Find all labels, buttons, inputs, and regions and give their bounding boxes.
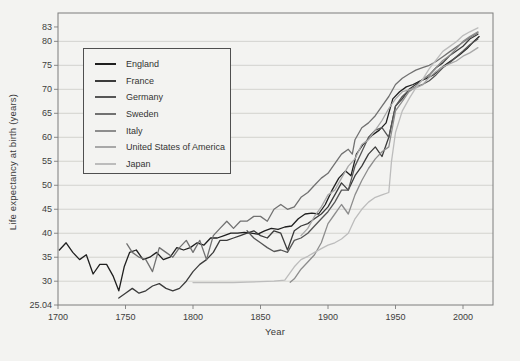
y-axis-title: Life expectancy at birth (years) [7, 62, 19, 262]
legend-swatch-england [95, 63, 116, 65]
y-tick-label: 55 [42, 156, 52, 166]
legend-item-sweden: Sweden [93, 106, 230, 123]
legend-label-sweden: Sweden [126, 109, 159, 119]
x-tick-label: 1850 [250, 312, 270, 322]
x-tick-label: 1700 [48, 312, 68, 322]
y-tick-label: 40 [42, 228, 52, 238]
x-tick-label: 1800 [183, 312, 203, 322]
x-tick-label: 2000 [453, 312, 473, 322]
legend-swatch-italy [95, 130, 116, 132]
legend-item-japan: Japan [93, 156, 230, 173]
y-tick-label: 25.04 [29, 300, 52, 310]
legend-swatch-united-states-of-america [95, 146, 116, 148]
legend-label-japan: Japan [126, 159, 151, 169]
legend-swatch-france [95, 80, 116, 82]
legend-label-england: England [126, 59, 159, 69]
legend-item-italy: Italy [93, 122, 230, 139]
x-axis-title: Year [175, 326, 375, 337]
series-line-japan [193, 28, 478, 283]
legend-label-italy: Italy [126, 126, 143, 136]
x-tick-label: 1950 [385, 312, 405, 322]
legend-label-germany: Germany [126, 92, 163, 102]
legend-item-germany: Germany [93, 89, 230, 106]
legend-swatch-germany [95, 96, 116, 98]
y-tick-label: 65 [42, 108, 52, 118]
series-line-italy [290, 32, 478, 282]
y-tick-label: 70 [42, 84, 52, 94]
legend-swatch-japan [95, 163, 116, 165]
legend: EnglandFranceGermanySwedenItalyUnited St… [83, 48, 231, 174]
y-tick-label: 75 [42, 60, 52, 70]
y-tick-label: 83 [42, 22, 52, 32]
legend-item-england: England [93, 56, 230, 73]
y-tick-label: 30 [42, 276, 52, 286]
legend-label-france: France [126, 76, 154, 86]
plot-area: 25.0430354045505560657075808317001750180… [0, 0, 520, 361]
legend-item-united-states-of-america: United States of America [93, 139, 230, 156]
y-tick-label: 60 [42, 132, 52, 142]
y-tick-label: 50 [42, 180, 52, 190]
life-expectancy-line-chart: 25.0430354045505560657075808317001750180… [0, 0, 520, 361]
y-tick-label: 80 [42, 36, 52, 46]
legend-swatch-sweden [95, 113, 116, 115]
legend-label-united-states-of-america: United States of America [126, 142, 225, 152]
legend-item-france: France [93, 73, 230, 90]
x-tick-label: 1900 [318, 312, 338, 322]
y-tick-label: 45 [42, 204, 52, 214]
x-tick-label: 1750 [115, 312, 135, 322]
y-tick-label: 35 [42, 252, 52, 262]
